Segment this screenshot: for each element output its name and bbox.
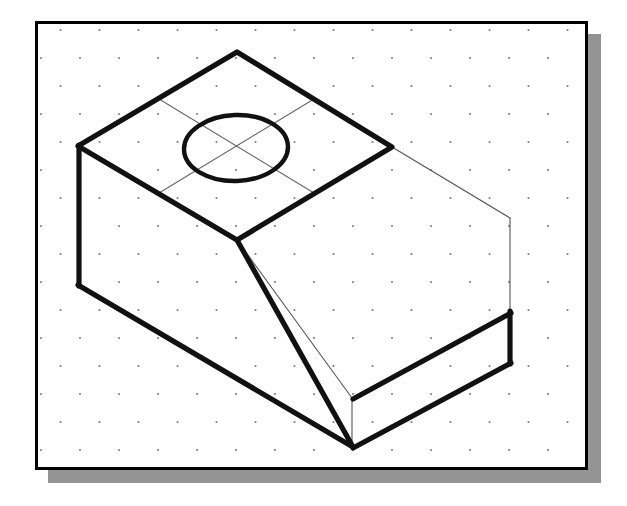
isometric-drawing (0, 0, 627, 506)
drawing-canvas (0, 0, 627, 506)
isometric-dot-grid (37, 23, 586, 468)
